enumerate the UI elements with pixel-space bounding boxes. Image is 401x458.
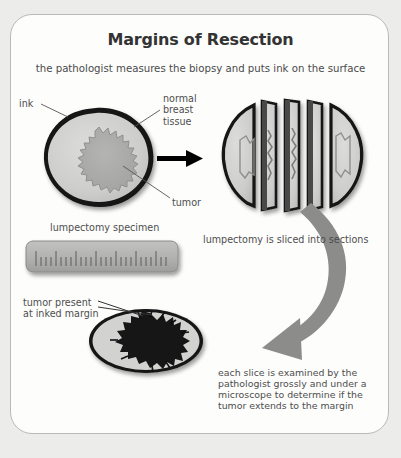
curved-arrow-icon (262, 203, 346, 360)
label-ink: ink (19, 98, 33, 109)
slice-3-cut-face (285, 100, 290, 211)
margin-specimen-graphic (89, 309, 203, 373)
page-title: Margins of Resection (0, 31, 401, 50)
ink-leader-line (41, 104, 68, 117)
slice-4-cut-face (308, 101, 313, 210)
slice-2-cut-face (262, 101, 267, 210)
figure-subtitle: the pathologist measures the biopsy and … (0, 63, 401, 75)
caption-sliced-into-sections: lumpectomy is sliced into sections (203, 234, 368, 245)
curved-arrow-head (262, 318, 302, 360)
note-examination: each slice is examined by the pathologis… (218, 367, 367, 411)
label-normal-breast-tissue: normal breast tissue (163, 93, 197, 127)
slice-1 (223, 105, 254, 206)
label-tumor: tumor (172, 197, 201, 208)
ruler-body (26, 241, 178, 272)
figure-page: Margins of Resection the pathologist mea… (0, 0, 401, 458)
whole-specimen-graphic (44, 108, 154, 207)
normal-tissue-leader-line (134, 110, 160, 127)
sliced-specimen-graphic (223, 100, 361, 211)
ruler-graphic (26, 241, 178, 272)
label-lumpectomy-specimen: lumpectomy specimen (50, 222, 159, 233)
label-tumor-present-at-inked-margin: tumor present at inked margin (23, 297, 99, 320)
black-arrow-icon (157, 150, 203, 167)
